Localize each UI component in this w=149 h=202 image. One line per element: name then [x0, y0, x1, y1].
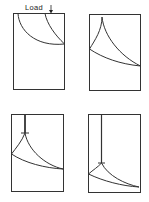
panel-3-crack-front-left	[12, 133, 26, 154]
load-arrow-icon	[49, 5, 53, 14]
panel-4-crack-front-left	[89, 163, 102, 174]
panel-3	[12, 115, 64, 192]
panel-4-crack-front-right	[102, 163, 140, 187]
panel-1	[14, 14, 65, 90]
panel-4	[89, 115, 141, 193]
crack-propagation-diagram: Load	[0, 0, 149, 202]
panel-4-frame	[89, 115, 141, 193]
load-label: Load	[25, 3, 43, 12]
panel-1-crack-front-right	[45, 14, 65, 45]
panel-2-frame	[90, 15, 141, 91]
panel-3-frame	[12, 115, 64, 192]
panel-2-crack-front-bottom	[90, 49, 141, 66]
panel-2	[90, 15, 141, 91]
panel-2-crack-front-left	[90, 17, 103, 49]
panel-1-crack-front-left	[18, 14, 65, 45]
